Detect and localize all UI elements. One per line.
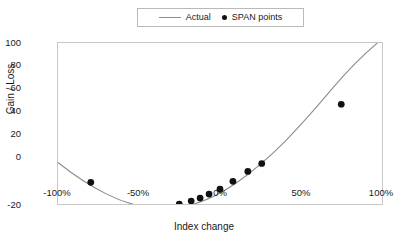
data-point [338,101,345,108]
x-tick-100: 100% [355,188,407,198]
legend-label-actual: Actual [186,13,211,22]
chart-canvas [58,43,382,204]
data-point [176,201,183,204]
x-tick-50: 50% [275,188,327,198]
x-tick-neg50: -50% [112,188,164,198]
chart-figure: Actual SPAN points 100 80 60 40 20 0 -20… [0,0,408,251]
chart-legend: Actual SPAN points [137,8,304,27]
data-point [244,168,251,175]
data-point [87,179,94,186]
x-axis-title: Index change [0,222,408,232]
data-point [188,198,195,204]
x-tick-0: 0% [194,188,246,198]
data-point [258,160,265,167]
dot-swatch-icon [222,15,227,20]
y-tick-neg20: -20 [0,200,21,210]
legend-entry-actual: Actual [159,13,211,22]
x-tick-neg100: -100% [31,188,83,198]
legend-label-span-points: SPAN points [232,13,282,22]
legend-entry-span-points: SPAN points [222,13,282,22]
y-tick-0: 0 [0,152,21,162]
data-point [230,178,237,185]
series-actual-line [58,43,382,204]
line-swatch-icon [159,17,181,18]
y-axis-title: Gain / Loss [6,34,16,144]
plot-area [57,42,383,205]
